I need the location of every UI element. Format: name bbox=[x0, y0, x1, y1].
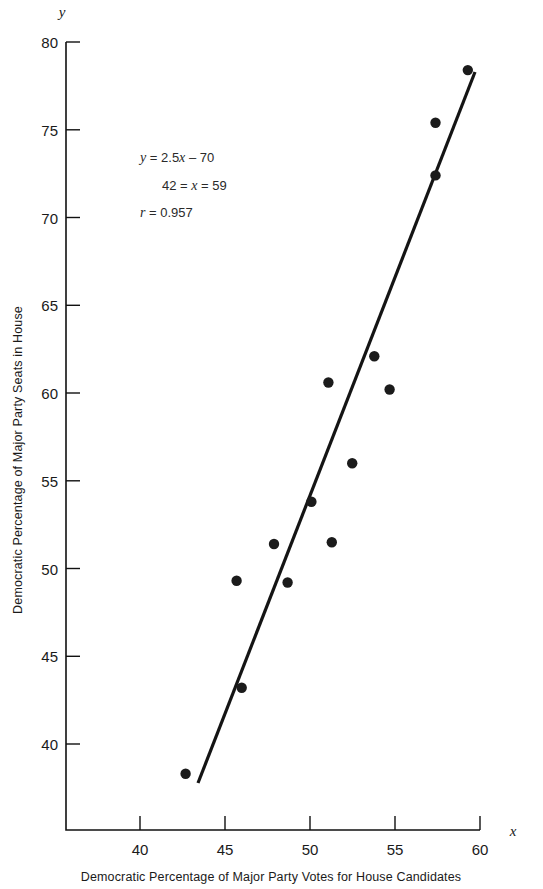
annotation-domain-tail: = 59 bbox=[198, 178, 227, 193]
y-tick-label: 75 bbox=[41, 122, 58, 139]
y-tick-label: 80 bbox=[41, 34, 58, 51]
y-tick-label: 40 bbox=[41, 736, 58, 753]
y-axis-symbol: y bbox=[57, 4, 66, 20]
y-tick-label: 65 bbox=[41, 297, 58, 314]
data-point bbox=[463, 65, 473, 75]
x-axis-title: Democratic Percentage of Major Party Vot… bbox=[81, 870, 461, 884]
data-point bbox=[327, 537, 337, 547]
y-tick-label: 50 bbox=[41, 561, 58, 578]
data-point bbox=[384, 384, 394, 394]
annotation-equation-body: = 2.5 bbox=[146, 150, 179, 165]
x-tick-label: 45 bbox=[217, 841, 234, 858]
data-point bbox=[180, 769, 190, 779]
chart-canvas: 80 75 70 65 60 55 50 45 40 40 45 bbox=[0, 0, 543, 889]
x-tick-label: 55 bbox=[387, 841, 404, 858]
data-point bbox=[282, 577, 292, 587]
data-point bbox=[269, 539, 279, 549]
y-tick-label: 70 bbox=[41, 210, 58, 227]
annotation-domain: 42 = x = 59 bbox=[162, 178, 227, 193]
data-point bbox=[430, 118, 440, 128]
data-point bbox=[323, 377, 333, 387]
annotation-correlation-value: = 0.957 bbox=[145, 205, 192, 220]
y-tick-label: 45 bbox=[41, 648, 58, 665]
data-point bbox=[306, 497, 316, 507]
annotation-correlation: r = 0.957 bbox=[140, 205, 193, 220]
data-point bbox=[231, 576, 241, 586]
annotation-domain-lead: 42 = bbox=[162, 178, 191, 193]
x-tick-label: 60 bbox=[472, 841, 489, 858]
y-axis-title: Democratic Percentage of Major Party Sea… bbox=[11, 306, 25, 614]
data-points-group bbox=[180, 65, 473, 779]
annotation-equation: y = 2.5x – 70 bbox=[138, 150, 214, 165]
axis-frame bbox=[66, 42, 480, 830]
y-axis-ticks: 80 75 70 65 60 55 50 45 40 bbox=[41, 34, 80, 753]
scatter-plot-figure: 80 75 70 65 60 55 50 45 40 40 45 bbox=[0, 0, 543, 889]
y-tick-label: 55 bbox=[41, 473, 58, 490]
annotation-equation-tail: – 70 bbox=[185, 150, 214, 165]
axes-group bbox=[66, 42, 480, 830]
x-tick-label: 40 bbox=[132, 841, 149, 858]
data-point bbox=[347, 458, 357, 468]
x-axis-symbol: x bbox=[509, 823, 517, 839]
x-axis-ticks: 40 45 50 55 60 bbox=[132, 816, 489, 858]
data-point bbox=[237, 683, 247, 693]
annotation-block: y = 2.5x – 70 42 = x = 59 r = 0.957 bbox=[138, 150, 227, 220]
x-tick-label: 50 bbox=[302, 841, 319, 858]
y-tick-label: 60 bbox=[41, 385, 58, 402]
data-point bbox=[430, 170, 440, 180]
data-point bbox=[369, 351, 379, 361]
